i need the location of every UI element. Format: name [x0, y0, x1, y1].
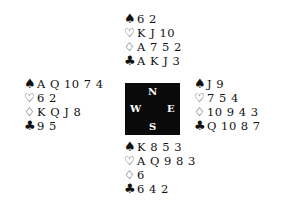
- south-clubs-cards: 6 4 2: [137, 182, 169, 196]
- compass-south-label: S: [149, 121, 156, 132]
- north-hearts-cards: K J 10: [137, 26, 175, 40]
- north-spades-row: ♠6 2: [124, 12, 182, 26]
- club-icon: ♣: [194, 119, 207, 133]
- east-clubs-row: ♣Q 10 8 7: [194, 119, 261, 133]
- heart-icon: ♡: [124, 154, 137, 168]
- north-spades-cards: 6 2: [137, 12, 157, 26]
- north-clubs-row: ♣A K J 3: [124, 54, 182, 68]
- west-clubs-cards: 9 5: [37, 119, 57, 133]
- west-diamonds-row: ♢K Q J 8: [24, 105, 104, 119]
- compass-north-label: N: [148, 86, 157, 97]
- heart-icon: ♡: [24, 91, 37, 105]
- club-icon: ♣: [24, 119, 37, 133]
- spade-icon: ♠: [124, 12, 137, 26]
- south-hearts-row: ♡A Q 9 8 3: [124, 154, 196, 168]
- heart-icon: ♡: [194, 91, 207, 105]
- east-spades-row: ♠J 9: [194, 77, 261, 91]
- compass-east-label: E: [167, 103, 175, 114]
- south-spades-cards: K 8 5 3: [137, 140, 182, 154]
- north-clubs-cards: A K J 3: [137, 54, 180, 68]
- west-hearts-row: ♡6 2: [24, 91, 104, 105]
- compass-box: N W E S: [125, 83, 180, 135]
- east-spades-cards: J 9: [207, 77, 224, 91]
- south-diamonds-cards: 6: [137, 168, 145, 182]
- heart-icon: ♡: [124, 26, 137, 40]
- diamond-icon: ♢: [194, 105, 207, 119]
- compass-west-label: W: [130, 103, 141, 114]
- east-hearts-row: ♡7 5 4: [194, 91, 261, 105]
- club-icon: ♣: [124, 182, 137, 196]
- diamond-icon: ♢: [24, 105, 37, 119]
- west-hand: ♠A Q 10 7 4 ♡6 2 ♢K Q J 8 ♣9 5: [24, 77, 104, 133]
- north-hand: ♠6 2 ♡K J 10 ♢A 7 5 2 ♣A K J 3: [124, 12, 182, 68]
- north-diamonds-row: ♢A 7 5 2: [124, 40, 182, 54]
- west-spades-row: ♠A Q 10 7 4: [24, 77, 104, 91]
- east-diamonds-cards: 10 9 4 3: [207, 105, 259, 119]
- east-hearts-cards: 7 5 4: [207, 91, 239, 105]
- south-diamonds-row: ♢6: [124, 168, 196, 182]
- west-hearts-cards: 6 2: [37, 91, 57, 105]
- diamond-icon: ♢: [124, 40, 137, 54]
- east-hand: ♠J 9 ♡7 5 4 ♢10 9 4 3 ♣Q 10 8 7: [194, 77, 261, 133]
- east-clubs-cards: Q 10 8 7: [207, 119, 261, 133]
- south-clubs-row: ♣6 4 2: [124, 182, 196, 196]
- east-diamonds-row: ♢10 9 4 3: [194, 105, 261, 119]
- north-hearts-row: ♡K J 10: [124, 26, 182, 40]
- west-clubs-row: ♣9 5: [24, 119, 104, 133]
- south-hand: ♠K 8 5 3 ♡A Q 9 8 3 ♢6 ♣6 4 2: [124, 140, 196, 196]
- south-hearts-cards: A Q 9 8 3: [137, 154, 196, 168]
- south-spades-row: ♠K 8 5 3: [124, 140, 196, 154]
- spade-icon: ♠: [24, 77, 37, 91]
- north-diamonds-cards: A 7 5 2: [137, 40, 182, 54]
- spade-icon: ♠: [124, 140, 137, 154]
- diamond-icon: ♢: [124, 168, 137, 182]
- west-spades-cards: A Q 10 7 4: [37, 77, 104, 91]
- spade-icon: ♠: [194, 77, 207, 91]
- club-icon: ♣: [124, 54, 137, 68]
- west-diamonds-cards: K Q J 8: [37, 105, 81, 119]
